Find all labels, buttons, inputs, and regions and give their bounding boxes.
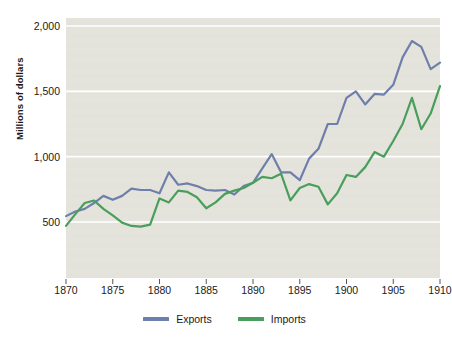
plot-texture-band (66, 28, 440, 33)
plot-texture-band (66, 158, 440, 163)
plot-texture-band (66, 238, 440, 243)
y-axis-tick-labels: 5001,0001,5002,000 (0, 0, 60, 338)
plot-texture-band (66, 58, 440, 63)
plot-texture-band (66, 18, 440, 23)
x-tick-label: 1910 (428, 284, 451, 296)
x-tick-label: 1875 (101, 284, 124, 296)
plot-texture-band (66, 228, 440, 233)
chart-legend: ExportsImports (0, 313, 449, 325)
plot-texture-band (66, 268, 440, 273)
x-tick-label: 1885 (195, 284, 218, 296)
plot-texture-band (66, 48, 440, 53)
x-tick-label: 1870 (54, 284, 77, 296)
plot-texture-band (66, 128, 440, 133)
y-tick-label: 1,000 (8, 151, 60, 163)
legend-item-exports[interactable]: Exports (143, 313, 212, 325)
plot-texture-band (66, 108, 440, 113)
y-tick-label: 2,000 (8, 20, 60, 32)
plot-texture-band (66, 188, 440, 193)
y-axis-title: Millions of dollars (14, 57, 25, 140)
plot-texture-band (66, 148, 440, 153)
x-tick-label: 1880 (148, 284, 171, 296)
plot-texture-band (66, 138, 440, 143)
plot-texture-band (66, 78, 440, 83)
plot-texture-band (66, 98, 440, 103)
plot-texture-band (66, 198, 440, 203)
plot-texture-band (66, 88, 440, 93)
plot-texture-band (66, 168, 440, 173)
x-tick-label: 1905 (382, 284, 405, 296)
legend-swatch-icon (143, 317, 169, 320)
legend-label: Imports (271, 313, 306, 325)
plot-texture-band (66, 248, 440, 253)
plot-texture-band (66, 258, 440, 263)
y-tick-label: 500 (8, 216, 60, 228)
legend-item-imports[interactable]: Imports (238, 313, 306, 325)
x-tick-label: 1900 (335, 284, 358, 296)
x-tick-label: 1890 (241, 284, 264, 296)
plot-texture-band (66, 208, 440, 213)
plot-texture-band (66, 38, 440, 43)
x-tick-label: 1895 (288, 284, 311, 296)
plot-texture-band (66, 68, 440, 73)
legend-swatch-icon (238, 317, 264, 320)
plot-texture-band (66, 118, 440, 123)
legend-label: Exports (176, 313, 212, 325)
